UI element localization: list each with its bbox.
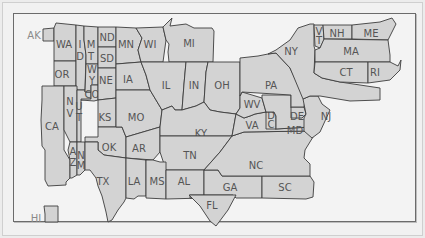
state-ak[interactable] — [43, 28, 54, 41]
state-wa[interactable] — [54, 23, 76, 61]
state-sc[interactable] — [262, 176, 314, 199]
us-state-map: AK HI WA OR CA I D N V U T A Z M T W Y C… — [0, 0, 425, 238]
state-la[interactable] — [126, 158, 146, 199]
state-wi[interactable] — [136, 27, 166, 62]
state-nm[interactable] — [77, 142, 85, 175]
state-nh[interactable] — [323, 25, 352, 39]
state-ms[interactable] — [146, 160, 166, 199]
state-hi[interactable] — [44, 206, 58, 222]
state-ks[interactable] — [98, 98, 116, 127]
state-nj[interactable] — [303, 96, 330, 138]
state-ri[interactable] — [368, 60, 401, 83]
state-me[interactable] — [352, 18, 396, 40]
label-hi: HI — [31, 213, 41, 224]
state-mt[interactable] — [84, 26, 98, 64]
state-ma[interactable] — [315, 39, 390, 62]
state-fl[interactable] — [189, 195, 236, 226]
state-de[interactable] — [291, 107, 306, 118]
state-nd[interactable] — [98, 27, 116, 47]
state-nv[interactable] — [64, 86, 77, 142]
state-ne[interactable] — [98, 68, 116, 100]
label-ak: AK — [27, 30, 41, 41]
state-sd[interactable] — [98, 47, 116, 68]
state-ut[interactable] — [77, 90, 91, 142]
state-mi[interactable] — [163, 18, 214, 62]
state-oh[interactable] — [204, 62, 240, 114]
state-or[interactable] — [54, 61, 76, 86]
state-dc[interactable] — [266, 112, 276, 129]
state-mn[interactable] — [116, 27, 142, 64]
